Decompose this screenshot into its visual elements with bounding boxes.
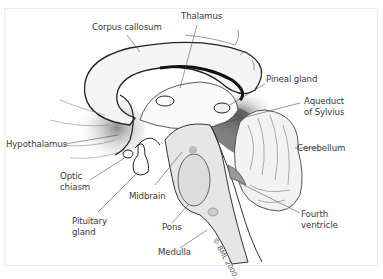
label-fourth-ventricle: Fourth ventricle: [301, 209, 338, 231]
massa-intermedia: [156, 96, 174, 106]
label-optic-chiasm: Optic chiasm: [60, 171, 90, 193]
leader-pons: [172, 205, 188, 223]
label-aqueduct-of-sylvius: Aqueduct of Sylvius: [304, 96, 344, 118]
label-pituitary-gland: Pituitary gland: [72, 216, 107, 238]
cerebellum-shape: [234, 110, 302, 211]
pons-shape: [178, 154, 210, 206]
leader-optic-chiasm: [90, 157, 126, 180]
label-pineal-gland: Pineal gland: [266, 74, 317, 85]
midbrain-nucleus: [189, 146, 197, 154]
label-corpus-callosum: Corpus callosum: [92, 22, 162, 33]
pineal-gland-shape: [214, 103, 230, 113]
label-thalamus: Thalamus: [181, 11, 222, 22]
label-pons: Pons: [162, 222, 182, 233]
leader-medulla: [180, 230, 207, 248]
medulla-nucleus: [208, 208, 218, 216]
label-cerebellum: Cerebellum: [297, 143, 345, 154]
label-medulla: Medulla: [158, 247, 191, 258]
label-hypothalamus: Hypothalamus: [6, 139, 67, 150]
optic-chiasm-shape: [123, 150, 133, 158]
label-midbrain: Midbrain: [129, 191, 166, 202]
